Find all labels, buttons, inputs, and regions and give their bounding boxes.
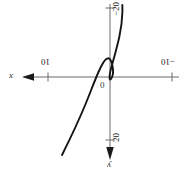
y-tick-label-20: 20 [112, 133, 121, 142]
x-tick-label-neg10: −10 [161, 57, 175, 66]
math-plot-figure: 10 −10 −20 20 x y 0 [0, 0, 190, 178]
x-axis-arrowhead [22, 73, 34, 81]
plot-canvas [0, 0, 190, 178]
y-axis-label: y [107, 161, 111, 170]
origin-label: 0 [100, 80, 105, 89]
x-tick-label-10: 10 [41, 57, 50, 66]
y-axis-arrowhead [106, 147, 114, 160]
y-tick-label-neg20: −20 [112, 2, 121, 16]
x-axis-label: x [9, 72, 13, 81]
